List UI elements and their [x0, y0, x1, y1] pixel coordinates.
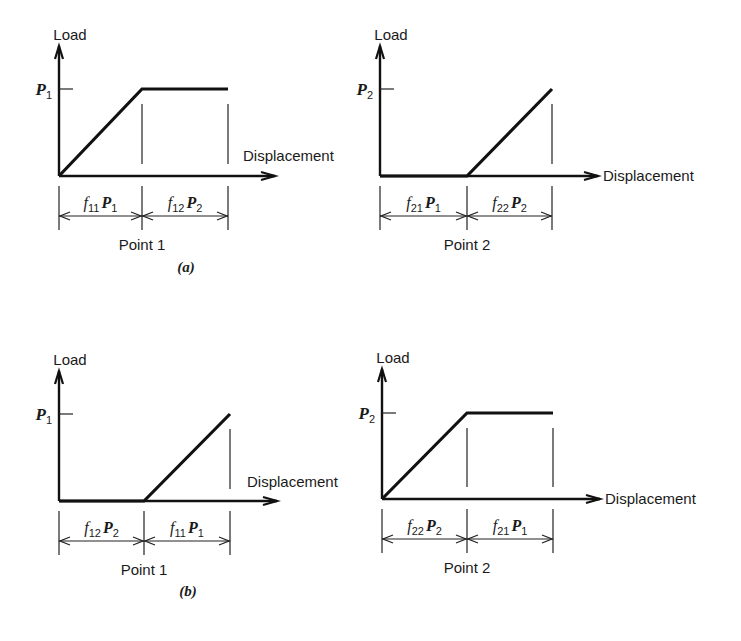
- load-symbol: P: [185, 194, 196, 211]
- x-axis-label: Displacement: [243, 147, 335, 164]
- load-symbol: P: [510, 517, 521, 534]
- flexibility-subscript: 11: [175, 527, 186, 539]
- panel-caption: (a): [177, 259, 195, 276]
- load-symbol: P: [34, 80, 46, 99]
- flexibility-subscript: 12: [89, 527, 101, 539]
- y-axis-label: Load: [376, 349, 409, 366]
- load-subscript: 1: [46, 414, 52, 426]
- dimension-segment: f12P2: [142, 194, 228, 220]
- load-subscript: 2: [196, 202, 202, 214]
- load-level-label: P1: [34, 405, 52, 426]
- y-axis-label: Load: [53, 26, 86, 43]
- dimension-segment: f12P2: [59, 519, 144, 545]
- load-subscript: 2: [369, 413, 375, 425]
- load-subscript: 1: [521, 525, 527, 537]
- load-symbol: P: [34, 405, 46, 424]
- load-symbol: P: [424, 194, 435, 211]
- flexibility-term-label: f21P1: [493, 517, 528, 537]
- flexibility-subscript: 12: [172, 202, 184, 214]
- x-axis-label: Displacement: [605, 490, 697, 507]
- flexibility-subscript: 11: [88, 202, 99, 214]
- plot-a-point-1: LoadDisplacementP1f11P1f12P2Point 1: [34, 26, 334, 253]
- flexibility-term-label: f21P1: [406, 194, 441, 214]
- load-subscript: 2: [367, 89, 373, 101]
- load-displacement-curve: [59, 414, 230, 501]
- point-label: Point 2: [444, 236, 491, 253]
- y-axis-label: Load: [53, 351, 86, 368]
- load-displacement-figure: LoadDisplacementP1f11P1f12P2Point 1LoadD…: [0, 0, 741, 641]
- flexibility-term-label: f11P1: [84, 194, 118, 214]
- load-displacement-curve: [59, 89, 228, 176]
- load-displacement-curve: [380, 89, 552, 176]
- dimension-segment: f22P2: [382, 517, 467, 543]
- load-subscript: 1: [46, 89, 52, 101]
- load-subscript: 1: [111, 202, 117, 214]
- load-symbol: P: [355, 80, 367, 99]
- plot-b-point-2: LoadDisplacementP2f22P2f21P1Point 2: [357, 349, 696, 576]
- flexibility-term-label: f22P2: [492, 194, 527, 214]
- load-symbol: P: [102, 519, 113, 536]
- load-subscript: 1: [198, 527, 204, 539]
- flexibility-subscript: 21: [411, 202, 423, 214]
- dimension-segment: f21P1: [380, 194, 467, 220]
- flexibility-term-label: f22P2: [407, 517, 442, 537]
- point-label: Point 1: [121, 561, 168, 578]
- load-subscript: 2: [436, 525, 442, 537]
- y-axis-label: Load: [374, 26, 407, 43]
- load-symbol: P: [357, 404, 369, 423]
- load-symbol: P: [100, 194, 111, 211]
- x-axis-label: Displacement: [247, 473, 339, 490]
- flexibility-subscript: 22: [412, 525, 424, 537]
- load-level-label: P1: [34, 80, 52, 101]
- load-level-label: P2: [355, 80, 373, 101]
- panel-caption: (b): [179, 583, 197, 600]
- dimension-segment: f11P1: [59, 194, 142, 220]
- load-symbol: P: [187, 519, 198, 536]
- plot-b-point-1: LoadDisplacementP1f12P2f11P1Point 1: [34, 351, 338, 578]
- point-label: Point 2: [444, 559, 491, 576]
- load-symbol: P: [510, 194, 521, 211]
- flexibility-subscript: 21: [497, 525, 509, 537]
- panel-a: LoadDisplacementP1f11P1f12P2Point 1LoadD…: [34, 26, 694, 276]
- load-subscript: 2: [521, 202, 527, 214]
- x-axis-label: Displacement: [603, 167, 695, 184]
- panel-b: LoadDisplacementP1f12P2f11P1Point 1LoadD…: [34, 349, 696, 600]
- load-level-label: P2: [357, 404, 375, 425]
- dimension-segment: f22P2: [467, 194, 552, 220]
- plot-a-point-2: LoadDisplacementP2f21P1f22P2Point 2: [355, 26, 694, 253]
- dimension-segment: f21P1: [467, 517, 553, 543]
- flexibility-term-label: f11P1: [170, 519, 204, 539]
- load-subscript: 1: [435, 202, 441, 214]
- flexibility-term-label: f12P2: [84, 519, 119, 539]
- dimension-segment: f11P1: [144, 519, 230, 545]
- point-label: Point 1: [119, 236, 166, 253]
- load-subscript: 2: [113, 527, 119, 539]
- load-symbol: P: [425, 517, 436, 534]
- flexibility-term-label: f12P2: [168, 194, 203, 214]
- flexibility-subscript: 22: [497, 202, 509, 214]
